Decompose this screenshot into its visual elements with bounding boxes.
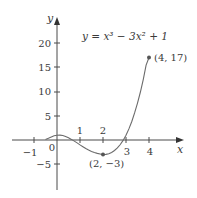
x-tick-label: 1 [77, 125, 83, 136]
y-axis-label: y [46, 12, 54, 25]
y-tick-label: 5 [45, 111, 51, 122]
end-point-marker [147, 56, 151, 60]
min-point-marker [101, 153, 105, 157]
x-tick-label: −1 [23, 147, 38, 158]
x-axis-label: x [177, 143, 184, 156]
x-tick-label: 3 [124, 146, 130, 157]
min-point-label: (2, −3) [89, 158, 124, 169]
y-tick-label: 10 [38, 86, 51, 97]
x-tick-label: 0 [49, 142, 55, 153]
x-tick-label: 2 [100, 125, 106, 136]
y-tick-label: 15 [38, 62, 51, 73]
y-tick-label: 20 [38, 38, 51, 49]
y-tick-label: −5 [36, 159, 51, 170]
end-point-label: (4, 17) [154, 52, 187, 63]
equation-label: y = x³ − 3x² + 1 [81, 30, 168, 42]
function-graph: −1 0 1 2 3 4 −5 5 10 15 20 x y y = x³ − … [0, 0, 197, 198]
x-tick-label: 4 [147, 146, 153, 157]
y-axis-arrow-icon [54, 17, 60, 25]
